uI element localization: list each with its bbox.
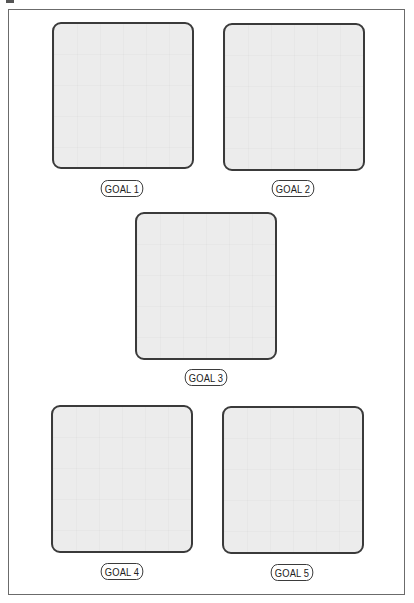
goal-2-label: GOAL 2 [272,180,315,197]
goal-1-box [52,22,194,169]
goal-5-box [222,406,364,554]
goal-5-label: GOAL 5 [271,564,314,581]
corner-mark [6,0,14,3]
goal-2-box [223,23,365,171]
goal-4-label: GOAL 4 [101,563,144,580]
goal-4-box [51,405,193,553]
goal-3-label: GOAL 3 [185,369,228,386]
goal-3-box [135,212,277,360]
goal-1-label: GOAL 1 [101,180,144,197]
